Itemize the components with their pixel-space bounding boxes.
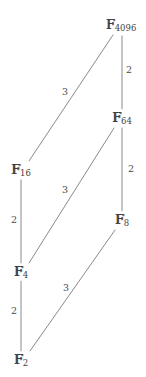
node-f64: F64 [110,110,134,127]
node-field-subscript: 16 [20,168,31,178]
node-field-symbol: F [11,162,20,177]
node-field-subscript: 4 [23,270,28,280]
node-field-symbol: F [115,212,124,227]
node-field-symbol: F [112,110,121,125]
node-field-subscript: 2 [23,358,28,368]
node-f2: F2 [12,352,30,369]
edge-degree-label-f16-f4096: 3 [62,87,68,97]
node-f8: F8 [113,212,131,229]
node-field-symbol: F [14,352,23,367]
node-f16: F16 [9,162,33,179]
edge-degree-label-f4-f16: 2 [11,215,17,225]
node-field-subscript: 64 [121,116,132,126]
edge-line-group [21,35,122,351]
edge-line-f16-f4096 [29,35,113,161]
edge-line-f4-f64 [29,128,114,263]
lattice-edges-canvas [0,0,146,377]
node-field-symbol: F [106,17,115,32]
edge-degree-label-f2-f4: 2 [11,306,17,316]
node-field-symbol: F [14,264,23,279]
node-f4096: F4096 [104,17,139,34]
edge-line-f2-f8 [30,230,115,351]
node-field-subscript: 8 [124,218,129,228]
node-field-subscript: 4096 [115,23,137,33]
edge-degree-label-f4-f64: 3 [62,185,68,195]
edge-degree-label-f64-f4096: 2 [126,65,132,75]
edge-degree-label-f8-f64: 2 [128,164,134,174]
edge-degree-label-f2-f8: 3 [63,283,69,293]
node-f4: F4 [12,264,30,281]
field-extension-lattice-diagram: F4096F64F16F8F4F2 3232223 [0,0,146,377]
